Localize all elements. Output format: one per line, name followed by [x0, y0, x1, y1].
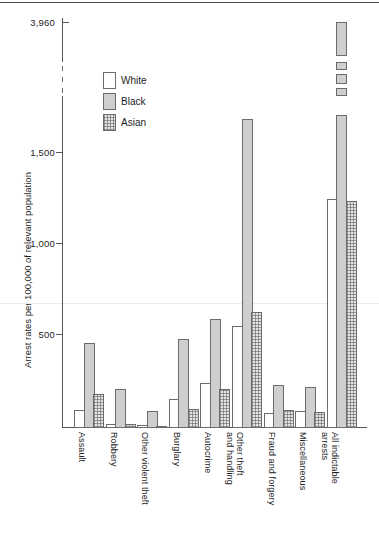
category-label-0: Assault — [77, 432, 87, 462]
y-tick-label-1000: 1,000 — [30, 238, 55, 249]
category-label-1: Robbery — [109, 432, 119, 467]
category-label-7: Miscellaneous — [298, 432, 308, 490]
chart-page: Arrest rates per 100,000 of relevant pop… — [0, 0, 379, 533]
category-label-3: Burglary — [172, 432, 182, 466]
white-swatch-icon — [103, 72, 116, 89]
category-label-5: Other theftand handling — [225, 432, 245, 485]
y-tick-label-500: 500 — [39, 329, 55, 340]
y-tick-label-3960: 3,960 — [30, 17, 55, 28]
asian-swatch-icon — [103, 114, 116, 131]
category-label-8: All indictablearrests — [320, 432, 340, 484]
legend-item-asian[interactable]: Asian — [103, 112, 147, 133]
legend-item-black[interactable]: Black — [103, 91, 147, 112]
category-label-2: Other violent theft — [140, 432, 150, 505]
legend-label-black: Black — [121, 96, 145, 107]
legend: White Black Asian — [103, 70, 147, 133]
legend-label-white: White — [121, 75, 147, 86]
y-tick-label-1500: 1,500 — [30, 147, 55, 158]
legend-label-asian: Asian — [121, 117, 146, 128]
black-swatch-icon — [103, 93, 116, 110]
legend-item-white[interactable]: White — [103, 70, 147, 91]
page-top-rule — [0, 2, 379, 3]
category-label-6: Fraud and forgery — [267, 432, 277, 505]
category-label-4: Autocrime — [203, 432, 213, 473]
